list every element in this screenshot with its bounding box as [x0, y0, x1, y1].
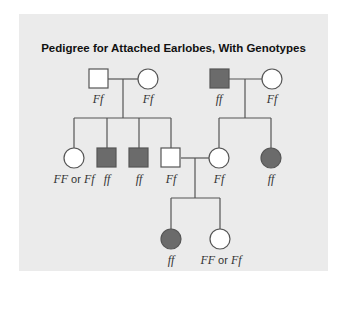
female-unaffected-symbol [210, 229, 230, 249]
genotype-label: ff [216, 92, 224, 106]
female-unaffected-symbol [64, 148, 84, 168]
female-unaffected-symbol [262, 69, 282, 89]
female-unaffected-symbol [209, 148, 229, 168]
genotype-label: FF or Ff [52, 172, 96, 186]
genotype-label: ff [136, 172, 144, 186]
pedigree-chart: Ff Ff ff Ff FF or Ff ff ff Ff Ff ff ff F… [0, 0, 344, 310]
genotype-label: ff [104, 172, 112, 186]
genotype-label: Ff [92, 92, 105, 106]
genotype-label: Ff [142, 92, 155, 106]
genotype-label: ff [268, 172, 276, 186]
male-unaffected-symbol [89, 69, 108, 88]
genotype-label: ff [168, 253, 176, 267]
genotype-label: Ff [213, 172, 226, 186]
male-affected-symbol [97, 148, 116, 167]
genotype-label: FF or Ff [199, 253, 243, 267]
female-affected-symbol [261, 148, 281, 168]
genotype-label: Ff [266, 92, 279, 106]
male-affected-symbol [210, 69, 229, 88]
genotype-label: Ff [165, 172, 178, 186]
male-unaffected-symbol [161, 148, 180, 167]
female-unaffected-symbol [138, 69, 158, 89]
female-affected-symbol [161, 229, 181, 249]
male-affected-symbol [129, 148, 148, 167]
